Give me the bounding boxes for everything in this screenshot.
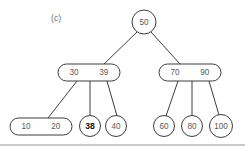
tree-edge <box>209 81 219 115</box>
node-key: 90 <box>200 68 210 77</box>
tree-edge <box>166 81 178 116</box>
node-rect <box>10 118 72 135</box>
tree-node-left-internal: 3039 <box>58 64 120 81</box>
node-key: 70 <box>171 68 181 77</box>
tree-edge <box>107 81 117 116</box>
tree-node-leaf-10-20: 1020 <box>10 118 72 135</box>
node-key: 30 <box>70 68 80 77</box>
tree-node-root: 50 <box>132 10 156 34</box>
node-key: 80 <box>187 122 197 131</box>
tree-node-leaf-40: 40 <box>106 116 127 137</box>
tree-node-leaf-100: 100 <box>210 115 233 138</box>
node-key: 39 <box>99 68 109 77</box>
node-key: 10 <box>22 122 32 131</box>
tree-edge <box>104 32 137 64</box>
node-key: 40 <box>111 122 121 131</box>
tree-edge <box>48 81 77 118</box>
node-key: 100 <box>214 122 228 131</box>
tree-diagram: 5030397090102038406080100 <box>0 0 245 150</box>
node-rect <box>159 64 221 81</box>
figure-canvas: (c) 5030397090102038406080100 <box>0 0 245 150</box>
tree-edge <box>151 32 180 64</box>
node-rect <box>58 64 120 81</box>
tree-node-leaf-60: 60 <box>154 116 175 137</box>
tree-node-right-internal: 7090 <box>159 64 221 81</box>
tree-node-leaf-38: 38 <box>80 116 101 137</box>
node-key: 20 <box>51 122 61 131</box>
node-key: 60 <box>159 122 169 131</box>
footer-rule <box>0 144 245 146</box>
node-key: 38 <box>85 121 95 131</box>
tree-node-leaf-80: 80 <box>182 116 203 137</box>
tree-nodes: 5030397090102038406080100 <box>10 10 233 138</box>
node-key: 50 <box>139 18 149 27</box>
